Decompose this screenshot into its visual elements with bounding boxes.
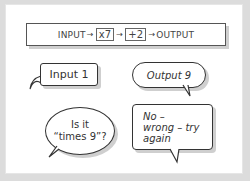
operation-multiply: x7 (96, 28, 115, 41)
bubble-text: Input 1 (50, 68, 89, 81)
arrow-icon: → (116, 30, 123, 39)
speech-bubble-input: Input 1 (40, 63, 98, 86)
output-label: OUTPUT (156, 30, 194, 40)
bubble-text-line: wrong – try (143, 122, 199, 133)
bubble-text: Output 9 (147, 70, 191, 81)
bubble-text-line: “times 9”? (53, 131, 106, 143)
bubble-text-line: Is it (53, 119, 106, 131)
speech-bubble-answer: No – wrong – try again (132, 104, 213, 150)
arrow-icon: → (148, 30, 155, 39)
speech-bubble-output: Output 9 (132, 62, 206, 88)
speech-tail-icon (47, 145, 61, 159)
function-machine: INPUT → x7 → +2 → OUTPUT (26, 23, 226, 46)
bubble-text-line: again (143, 133, 199, 144)
operation-add: +2 (125, 28, 146, 41)
bubble-text-line: No – (143, 111, 199, 122)
input-label: INPUT (58, 30, 86, 40)
arrow-icon: → (87, 30, 94, 39)
speech-tail-icon (182, 84, 194, 98)
speech-tail-icon (168, 148, 182, 164)
